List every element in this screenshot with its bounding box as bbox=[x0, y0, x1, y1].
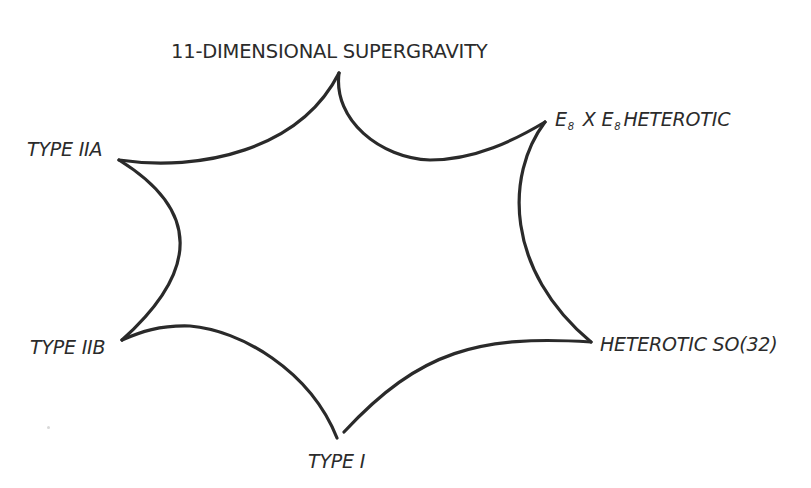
edge-iib-iia bbox=[119, 160, 180, 340]
concave-hexagon-outline bbox=[0, 0, 811, 488]
edge-iia-sugra bbox=[119, 73, 339, 163]
e8-heterotic-text: HETEROTIC bbox=[623, 108, 730, 130]
label-e8xe8-heterotic: E8 X E8HETEROTIC bbox=[555, 110, 730, 132]
e8-times: X bbox=[577, 108, 602, 130]
edge-so32-type1 bbox=[344, 340, 591, 432]
paper-speck bbox=[47, 426, 50, 429]
label-type-iia: TYPE IIA bbox=[27, 140, 102, 159]
label-heterotic-so32: HETEROTIC SO(32) bbox=[600, 335, 777, 354]
e8-subscript-second: 8 bbox=[614, 121, 620, 132]
e8-subscript-first: 8 bbox=[568, 121, 574, 132]
edge-e8-so32 bbox=[519, 122, 591, 342]
e8-e-second: E bbox=[601, 108, 613, 130]
e8-e-first: E bbox=[555, 108, 567, 130]
label-type-i: TYPE I bbox=[308, 452, 365, 471]
edge-type1-iib bbox=[122, 326, 337, 438]
edge-sugra-e8 bbox=[338, 73, 545, 160]
label-11d-supergravity: 11-DIMENSIONAL SUPERGRAVITY bbox=[171, 42, 488, 62]
label-type-iib: TYPE IIB bbox=[30, 338, 105, 357]
m-theory-diagram: 11-DIMENSIONAL SUPERGRAVITY E8 X E8HETER… bbox=[0, 0, 811, 488]
